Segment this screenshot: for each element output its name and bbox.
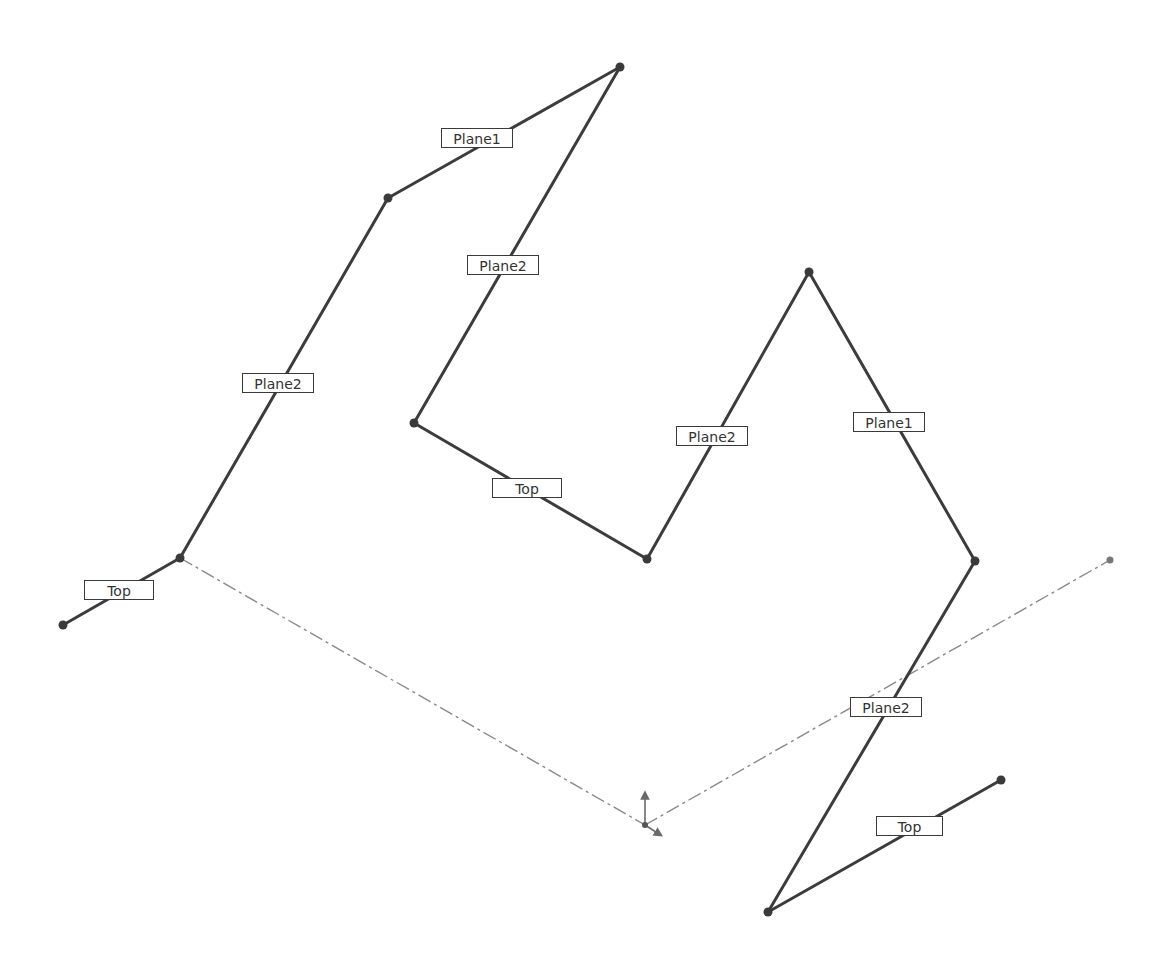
sketch-point[interactable]	[410, 419, 419, 428]
relation-label-plane2[interactable]: Plane2	[242, 373, 314, 393]
sketch-segment[interactable]	[768, 780, 1001, 912]
relation-label-plane2[interactable]: Plane2	[467, 255, 539, 275]
construction-line[interactable]	[645, 560, 1110, 825]
relation-label-plane1[interactable]: Plane1	[853, 412, 925, 432]
relation-label-top[interactable]: Top	[492, 478, 562, 498]
relation-label-top[interactable]: Top	[84, 580, 154, 600]
construction-endpoint[interactable]	[1107, 557, 1114, 564]
construction-lines	[180, 557, 1114, 826]
sketch-point[interactable]	[971, 557, 980, 566]
sketch-point[interactable]	[384, 194, 393, 203]
sketch-point[interactable]	[997, 776, 1006, 785]
sketch-point[interactable]	[59, 621, 68, 630]
sketch-segment[interactable]	[414, 67, 620, 423]
construction-line[interactable]	[180, 558, 645, 825]
sketch-point[interactable]	[176, 554, 185, 563]
relation-label-plane1[interactable]: Plane1	[441, 128, 513, 148]
sketch-point[interactable]	[805, 268, 814, 277]
relation-label-plane2[interactable]: Plane2	[676, 426, 748, 446]
relation-label-plane2[interactable]: Plane2	[850, 697, 922, 717]
sketch-point[interactable]	[643, 555, 652, 564]
sketch-point[interactable]	[616, 63, 625, 72]
relation-label-top[interactable]: Top	[876, 816, 943, 836]
sketch-point[interactable]	[764, 908, 773, 917]
sketch-segment[interactable]	[647, 272, 809, 559]
origin-point-icon	[642, 822, 648, 828]
sketch-canvas[interactable]	[0, 0, 1176, 975]
origin-icon[interactable]	[642, 795, 659, 834]
